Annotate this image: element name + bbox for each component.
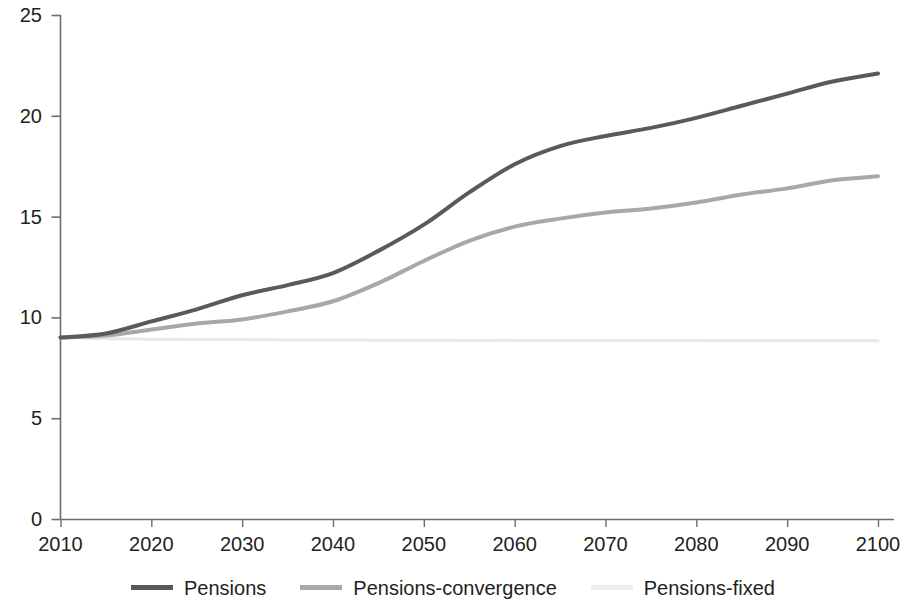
legend-label: Pensions-fixed xyxy=(644,577,775,599)
axis-group xyxy=(52,15,895,527)
series-line-pensions-fixed xyxy=(61,338,879,341)
x-axis-tick-label: 2060 xyxy=(492,534,537,554)
series-line-pensions xyxy=(61,73,879,337)
y-axis-tick-label: 25 xyxy=(0,5,42,25)
x-axis-tick-label: 2070 xyxy=(583,534,628,554)
legend-swatch-icon xyxy=(591,585,633,590)
x-axis-tick-label: 2010 xyxy=(38,534,83,554)
x-axis-tick-label: 2030 xyxy=(220,534,265,554)
chart-container: 0510152025 20102020203020402050206020702… xyxy=(0,0,906,603)
y-axis-tick-label: 20 xyxy=(0,106,42,126)
legend-item-pensions[interactable]: Pensions xyxy=(131,577,266,599)
y-axis-tick-label: 15 xyxy=(0,207,42,227)
y-axis-tick-label: 10 xyxy=(0,307,42,327)
legend-item-pensions-fixed[interactable]: Pensions-fixed xyxy=(591,577,775,599)
x-axis-tick-label: 2020 xyxy=(129,534,174,554)
y-axis-ticks xyxy=(52,16,61,520)
y-axis-tick-label: 5 xyxy=(0,408,42,428)
data-series-group xyxy=(61,73,879,340)
x-axis-tick-label: 2040 xyxy=(311,534,356,554)
x-axis-tick-label: 2050 xyxy=(402,534,447,554)
x-axis-tick-label: 2100 xyxy=(856,534,901,554)
legend-label: Pensions xyxy=(184,577,266,599)
legend-swatch-icon xyxy=(300,585,342,590)
chart-legend: PensionsPensions-convergencePensions-fix… xyxy=(0,572,906,603)
chart-plot-area xyxy=(0,0,906,603)
legend-item-pensions-convergence[interactable]: Pensions-convergence xyxy=(300,577,556,599)
x-axis-tick-label: 2080 xyxy=(674,534,719,554)
legend-label: Pensions-convergence xyxy=(353,577,556,599)
x-axis-tick-label: 2090 xyxy=(765,534,810,554)
legend-swatch-icon xyxy=(131,585,173,590)
y-axis-tick-label: 0 xyxy=(0,509,42,529)
